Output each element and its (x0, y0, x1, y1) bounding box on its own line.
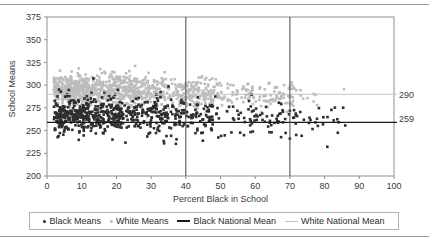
data-point (193, 88, 196, 91)
data-point (96, 115, 99, 118)
data-point (157, 126, 160, 129)
y-tick-label: 375 (26, 12, 41, 22)
data-point (229, 84, 232, 87)
data-point (111, 88, 114, 91)
data-point (147, 89, 150, 92)
data-point (132, 100, 135, 103)
data-point (100, 110, 103, 113)
data-point (162, 140, 165, 143)
data-point (242, 101, 245, 104)
data-point (202, 118, 205, 121)
data-point (226, 99, 229, 102)
gray-line-icon (285, 221, 298, 222)
data-point (196, 90, 199, 93)
data-point (299, 111, 302, 114)
data-point (103, 128, 106, 131)
data-point (127, 106, 130, 109)
data-point (249, 131, 252, 134)
data-point (274, 99, 277, 102)
data-point (100, 87, 103, 90)
data-point (118, 78, 121, 81)
legend: Black Means White Means Black National M… (29, 212, 399, 230)
data-point (150, 116, 153, 119)
data-point (139, 91, 142, 94)
data-point (179, 115, 182, 118)
data-point (169, 96, 172, 99)
data-point (172, 106, 175, 109)
data-point (311, 128, 314, 131)
data-point (334, 106, 337, 109)
data-point (113, 117, 116, 120)
data-point (144, 76, 147, 79)
data-point (61, 126, 64, 129)
data-point (70, 76, 73, 79)
data-point (127, 91, 130, 94)
data-point (181, 88, 184, 91)
data-point (102, 132, 105, 135)
data-point (243, 134, 246, 137)
data-point (132, 95, 135, 98)
data-point (137, 113, 140, 116)
data-point (135, 105, 138, 108)
data-point (97, 111, 100, 114)
data-point (290, 81, 293, 84)
data-point (53, 118, 56, 121)
data-point (211, 119, 214, 122)
data-point (125, 85, 128, 88)
data-point (183, 102, 186, 105)
x-tick-label: 70 (285, 181, 295, 191)
data-point (80, 124, 83, 127)
data-point (204, 101, 207, 104)
data-point (146, 123, 149, 126)
data-point (143, 91, 146, 94)
data-point (221, 98, 224, 101)
data-point (130, 90, 133, 93)
data-point (125, 72, 128, 75)
data-point (197, 81, 200, 84)
data-point (344, 124, 347, 127)
data-point (243, 117, 246, 120)
data-point (147, 108, 150, 111)
data-point (316, 118, 319, 121)
data-point (129, 75, 132, 78)
data-point (95, 132, 98, 135)
data-point (237, 117, 240, 120)
data-point (102, 110, 105, 113)
data-point (144, 101, 147, 104)
data-point (175, 89, 178, 92)
data-point (84, 73, 87, 76)
data-point (121, 102, 124, 105)
data-point (322, 123, 325, 126)
data-point (220, 135, 223, 138)
data-point (101, 96, 104, 99)
data-point (94, 108, 97, 111)
data-point (53, 100, 56, 103)
data-point (202, 99, 205, 102)
data-point (77, 81, 80, 84)
data-point (82, 88, 85, 91)
data-point (150, 95, 153, 98)
data-point (157, 115, 160, 118)
data-point (53, 79, 56, 82)
data-point (92, 77, 95, 80)
data-point (56, 117, 59, 120)
data-point (171, 113, 174, 116)
data-point (211, 77, 214, 80)
data-point (204, 105, 207, 108)
data-point (249, 118, 252, 121)
data-point (302, 97, 305, 100)
data-point (77, 139, 80, 142)
figure-container: 2002252502753003253503750102030405060708… (0, 0, 429, 240)
data-point (267, 100, 270, 103)
data-point (303, 119, 306, 122)
data-point (86, 104, 89, 107)
data-point (115, 77, 118, 80)
legend-label: Black Means (49, 216, 101, 226)
data-point (322, 116, 325, 119)
data-point (175, 143, 178, 146)
data-point (208, 98, 211, 101)
data-point (107, 112, 110, 115)
data-point (170, 110, 173, 113)
data-point (138, 97, 141, 100)
data-point (147, 132, 150, 135)
